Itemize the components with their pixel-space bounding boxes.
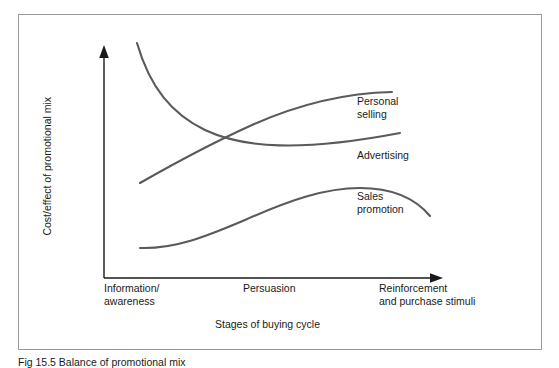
series-label-advertising: Advertising	[357, 149, 409, 162]
figure-caption: Fig 15.5 Balance of promotional mix	[18, 356, 186, 368]
x-axis-title: Stages of buying cycle	[180, 318, 355, 331]
series-label-sales-promotion: Sales promotion	[357, 190, 404, 215]
series-label-personal-selling: Personal selling	[357, 95, 398, 120]
figure-container: Cost/effect of promotional mix Informati…	[0, 0, 559, 368]
y-axis-arrowhead	[99, 45, 109, 58]
curve-personal-selling	[140, 92, 392, 183]
x-axis-tick-label-information-awareness: Information/ awareness	[104, 282, 159, 307]
y-axis-title: Cost/effect of promotional mix	[41, 71, 54, 261]
chart-plot-area	[0, 0, 559, 368]
x-axis-tick-label-reinforcement: Reinforcement and purchase stimuli	[379, 282, 475, 307]
x-axis-tick-label-persuasion: Persuasion	[243, 282, 296, 295]
